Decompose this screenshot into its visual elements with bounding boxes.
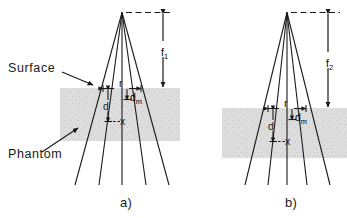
focus-distance-sub-a: 1 (164, 52, 168, 61)
focus-distance-sub-b: 2 (329, 63, 333, 72)
surface-label: Surface (8, 62, 55, 75)
panel-a (42, 13, 180, 186)
beam-ray-left-b (245, 13, 287, 186)
field-radius-label-b: r (284, 98, 288, 109)
beam-inner-ray-right-b (287, 13, 307, 186)
panel-caption-a: a) (120, 196, 132, 209)
depth-label-b: d (268, 121, 274, 132)
beam-ray-right-b (287, 13, 330, 186)
field-radius-label-a: r (119, 78, 123, 89)
max-depth-label-a: dm (130, 88, 142, 104)
panel-caption-b: b) (285, 196, 297, 209)
max-depth-label-b: dm (295, 108, 307, 124)
phantom-label: Phantom (8, 148, 62, 161)
focus-distance-label-b: f2 (326, 54, 333, 70)
max-depth-base-b: d (295, 111, 301, 123)
depth-label-a: d (103, 101, 109, 112)
phantom-slab-b (222, 108, 347, 158)
max-depth-sub-a: m (136, 97, 142, 106)
reference-point-label-a: x (120, 116, 125, 127)
max-depth-sub-b: m (301, 117, 307, 126)
surface-leader-arrow (62, 72, 93, 85)
reference-point-label-b: x (285, 136, 290, 147)
figure-container: Surface Phantom f1 r dm d x a) f2 r dm d… (0, 0, 347, 218)
focus-distance-label-a: f1 (161, 43, 168, 59)
max-depth-base-a: d (130, 91, 136, 103)
